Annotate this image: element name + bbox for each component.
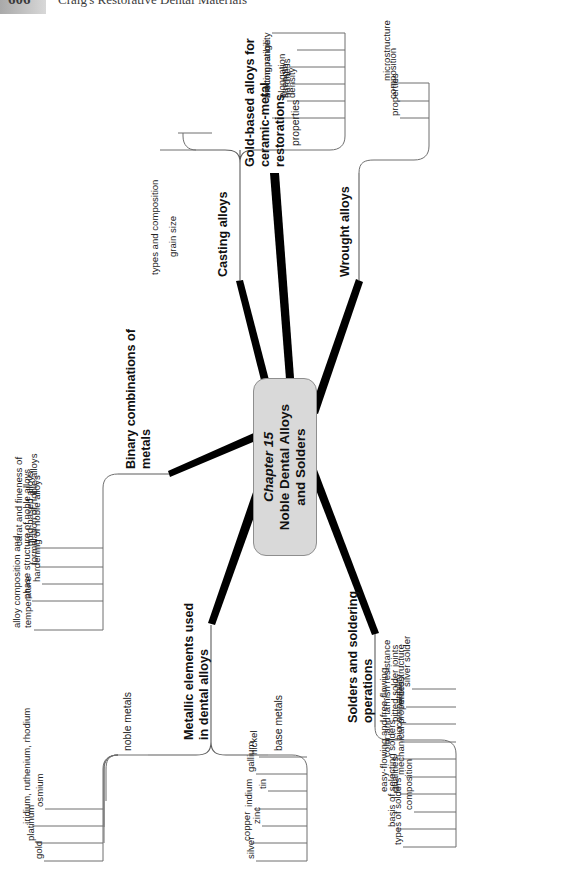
chapter-title: Noble Dental Alloys and Solders	[277, 404, 309, 530]
leaf-carat-and-fineness[interactable]: carat and fineness of gold-based alloys	[13, 401, 36, 546]
trunk-gold-based-alloys	[270, 173, 296, 405]
mind-map: Chapter 15 Noble Dental Alloys and Solde…	[0, 0, 581, 873]
mind-map-canvas: Chapter 15 Noble Dental Alloys and Solde…	[0, 0, 581, 873]
leaf-nickel[interactable]: nickel	[248, 675, 259, 755]
branch-label-solders-and-soldering[interactable]: Solders and soldering operations	[346, 548, 376, 723]
trunk-binary-combinations	[168, 431, 260, 477]
node-grain-size[interactable]: grain size	[167, 147, 178, 257]
branch-label-binary-combinations[interactable]: Binary combinations of metals	[124, 299, 154, 469]
leaf-biocompatibility[interactable]: biocompatibility	[261, 0, 272, 98]
connector-base-leaves	[292, 755, 307, 861]
node-types-and-composition[interactable]: types and composition	[149, 140, 160, 275]
node-base-metals[interactable]: base metals	[273, 661, 285, 751]
chapter-number: Chapter 15	[261, 432, 277, 502]
leaf-elongation[interactable]: elongation	[276, 0, 287, 98]
connector-casting-upper	[183, 133, 196, 150]
branch-label-wrought-alloys[interactable]: Wrought alloys	[338, 147, 353, 277]
trunk-wrought-alloys	[310, 279, 363, 414]
connector-binary-leaves	[103, 474, 118, 630]
leaf-iridium-ruthenium-rhodium[interactable]: iridium, ruthenium, rhodium	[21, 649, 32, 824]
connector-noble-leaves	[103, 755, 118, 861]
connector-properties-leaves	[330, 33, 345, 150]
leaf-wrought-properties[interactable]: properties	[389, 6, 400, 116]
leaf-osmium[interactable]: osmium	[34, 712, 45, 807]
branch-label-casting-alloys[interactable]: Casting alloys	[216, 157, 231, 277]
leaf-silver-solder[interactable]: silver solder	[401, 577, 412, 687]
node-noble-metals[interactable]: noble metals	[122, 661, 134, 751]
branch-label-metallic-elements[interactable]: Metallic elements used in dental alloys	[182, 580, 212, 740]
central-node[interactable]: Chapter 15 Noble Dental Alloys and Solde…	[253, 378, 317, 556]
